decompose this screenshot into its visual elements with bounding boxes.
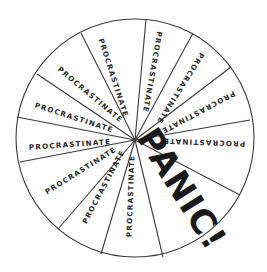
procrastination-wheel: PROCRASTINATEPROCRASTINATEPROCRASTINATEP… xyxy=(0,0,267,272)
segment-label: PROCRASTINATE xyxy=(141,31,164,114)
segment-label: PROCRASTINATE xyxy=(125,155,137,238)
segment-label: PROCRASTINATE xyxy=(29,137,112,152)
